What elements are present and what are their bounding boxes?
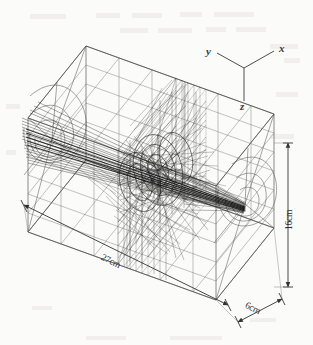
scattered-secondary-tracks	[56, 80, 230, 254]
dimension-6cm	[216, 228, 285, 328]
axis-x-line	[244, 51, 274, 68]
axis-label-z: z	[240, 100, 244, 112]
axis-label-x: x	[279, 42, 285, 54]
axis-triad	[217, 51, 274, 101]
mesh-height-layers	[28, 65, 274, 281]
axis-label-y: y	[206, 45, 211, 57]
dimension-label-height: 16cm	[284, 210, 294, 230]
figure-canvas: x y z 16cm 27cm 6cm	[0, 0, 313, 345]
axis-y-line	[217, 53, 244, 68]
wireframe-drawing	[0, 0, 313, 345]
